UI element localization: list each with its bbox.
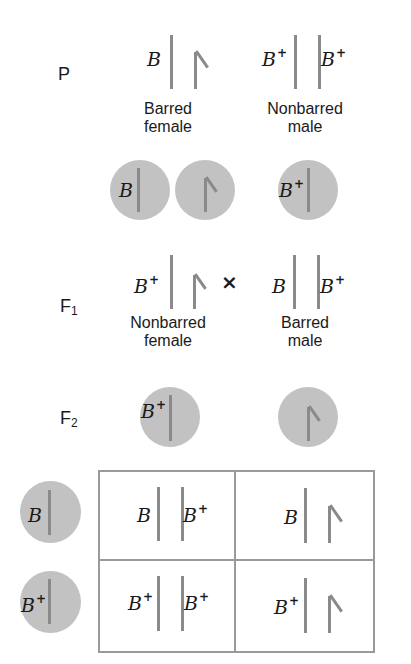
z-chromosome [304,488,307,543]
z-chromosome [293,255,296,309]
generation-label-p: P [58,64,70,85]
punnett-divider-horizontal [98,559,375,561]
allele-b: B [284,508,298,527]
allele-b-plus: B+ [279,181,304,200]
allele-b: B [137,506,151,525]
w-chromosome [193,275,196,309]
z-chromosome [170,35,173,89]
allele-b-plus: B+ [134,277,159,296]
punnett-square [98,470,375,653]
z-chromosome [137,168,140,212]
z-chromosome [48,490,51,535]
allele-b: B [272,277,286,296]
z-chromosome [170,255,173,309]
allele-b: B [147,50,161,69]
allele-b-plus: B+ [184,594,209,613]
allele-b-plus: B+ [128,594,153,613]
allele-b-plus: B+ [183,506,208,525]
allele-b-plus: B+ [141,402,166,421]
z-chromosome [294,35,297,89]
z-chromosome [157,576,160,631]
allele-b-plus: B+ [320,277,345,296]
parent-male-label: Nonbarred male [250,100,360,136]
w-chromosome-hook [195,50,209,68]
z-chromosome [304,578,307,633]
z-chromosome [307,168,310,212]
w-chromosome [307,407,310,441]
z-chromosome [169,395,172,441]
f1-female-label: Nonbarred female [113,314,223,350]
punnett-divider-vertical [234,470,236,653]
w-chromosome [328,596,331,633]
allele-b: B [28,506,42,525]
allele-b: B [119,181,133,200]
generation-label-f1: F1 [60,296,78,317]
z-chromosome [157,487,160,541]
allele-b-plus: B+ [321,50,346,69]
w-chromosome [194,52,197,89]
allele-b-plus: B+ [262,50,287,69]
f1-male-label: Barred male [255,314,355,350]
parent-female-label: Barred female [118,100,218,136]
cross-symbol: × [221,270,238,294]
w-chromosome [204,178,207,212]
generation-label-f2: F2 [60,408,78,429]
allele-b-plus: B+ [274,598,299,617]
z-chromosome [48,579,51,624]
w-chromosome [328,506,331,543]
allele-b-plus: B+ [21,596,46,615]
